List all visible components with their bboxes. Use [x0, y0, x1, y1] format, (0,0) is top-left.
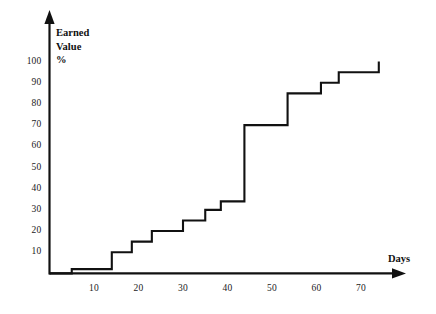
y-tick-label-10: 10 [16, 246, 42, 256]
y-tick-label-90: 90 [16, 77, 42, 87]
y-axis-title-line-3: % [56, 53, 89, 67]
y-tick-label-70: 70 [16, 119, 42, 129]
x-tick-label-40: 40 [216, 283, 240, 293]
y-tick-label-80: 80 [16, 98, 42, 108]
y-tick-label-50: 50 [16, 162, 42, 172]
x-tick-label-20: 20 [127, 283, 151, 293]
y-tick-label-60: 60 [16, 140, 42, 150]
earned-value-chart: Earned Value % Days 10203040506070809010… [0, 0, 436, 314]
x-tick-label-50: 50 [260, 283, 284, 293]
y-axis-title: Earned Value % [56, 26, 89, 67]
x-tick-label-30: 30 [171, 283, 195, 293]
y-tick-label-40: 40 [16, 183, 42, 193]
x-tick-label-60: 60 [305, 283, 329, 293]
y-axis-arrow-icon [44, 10, 54, 24]
x-axis-arrow-icon [392, 268, 406, 278]
y-tick-label-100: 100 [16, 56, 42, 66]
y-axis-title-line-1: Earned [56, 26, 89, 40]
x-tick-label-10: 10 [82, 283, 106, 293]
earned-value-step-line [50, 62, 379, 274]
y-axis-title-line-2: Value [56, 40, 89, 54]
y-tick-label-20: 20 [16, 225, 42, 235]
x-axis-title: Days [388, 253, 410, 264]
y-tick-label-30: 30 [16, 204, 42, 214]
x-tick-label-70: 70 [349, 283, 373, 293]
